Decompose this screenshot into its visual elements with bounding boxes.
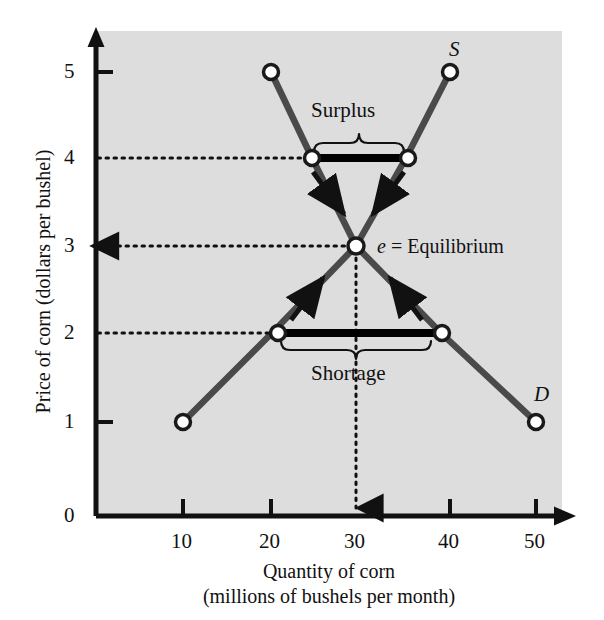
y-tick-label-4: 4 [64, 147, 75, 168]
marker-demand-40-2 [435, 326, 450, 341]
x-axis-title-line2: (millions of bushels per month) [96, 585, 562, 608]
x-tick-label-10: 10 [171, 531, 192, 552]
y-axis-title-wrap: Price of corn (dollars per bushel) [32, 72, 55, 492]
marker-demand-50-1 [529, 415, 544, 430]
x-tick-label-50: 50 [524, 531, 545, 552]
y-axis-title: Price of corn (dollars per bushel) [32, 72, 55, 492]
x-axis-arrowhead [554, 507, 576, 526]
y-tick-label-3: 3 [64, 235, 75, 256]
y-tick-label-2: 2 [64, 322, 75, 343]
shortage-label: Shortage [311, 363, 386, 384]
surplus-label: Surplus [311, 100, 375, 121]
marker-supply-35-4 [401, 151, 416, 166]
marker-supply-10-1 [176, 415, 191, 430]
supply-curve-label: S [449, 39, 460, 60]
equilibrium-annotation-text: = Equilibrium [391, 235, 504, 257]
marker-demand-25-4 [305, 151, 320, 166]
equilibrium-annotation: e= Equilibrium [377, 236, 504, 256]
supply-demand-figure: 5 4 3 2 1 0 10 20 30 40 50 S D Surplus S… [0, 0, 604, 620]
marker-supply-40-5 [443, 65, 458, 80]
marker-equilibrium-point [348, 238, 364, 254]
marker-supply-20-2 [271, 326, 286, 341]
x-axis-title-line1: Quantity of corn [96, 560, 562, 583]
y-tick-label-0: 0 [64, 505, 75, 526]
y-tick-label-1: 1 [64, 411, 75, 432]
y-tick-label-5: 5 [64, 61, 75, 82]
marker-demand-20-5 [264, 65, 279, 80]
x-tick-label-40: 40 [438, 531, 459, 552]
x-tick-label-20: 20 [259, 531, 280, 552]
x-tick-label-30: 30 [344, 531, 365, 552]
equilibrium-marker-letter: e [377, 235, 386, 257]
plot-canvas [0, 0, 604, 620]
demand-curve-label: D [534, 384, 549, 405]
